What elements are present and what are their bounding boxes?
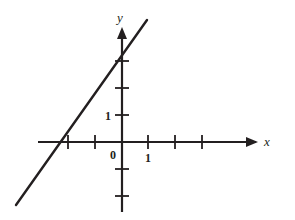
y-axis-arrowhead-icon (117, 27, 127, 39)
x-axis-arrowhead-icon (246, 137, 258, 147)
graph-canvas: x y 0 1 1 (0, 0, 295, 220)
y-axis-label: y (115, 10, 123, 25)
y-tick-label-1: 1 (105, 109, 111, 123)
coordinate-plane-figure: x y 0 1 1 (0, 0, 295, 220)
origin-label: 0 (110, 148, 116, 162)
x-tick-label-1: 1 (145, 151, 151, 165)
plotted-line (16, 20, 147, 205)
x-axis-label: x (263, 134, 270, 149)
